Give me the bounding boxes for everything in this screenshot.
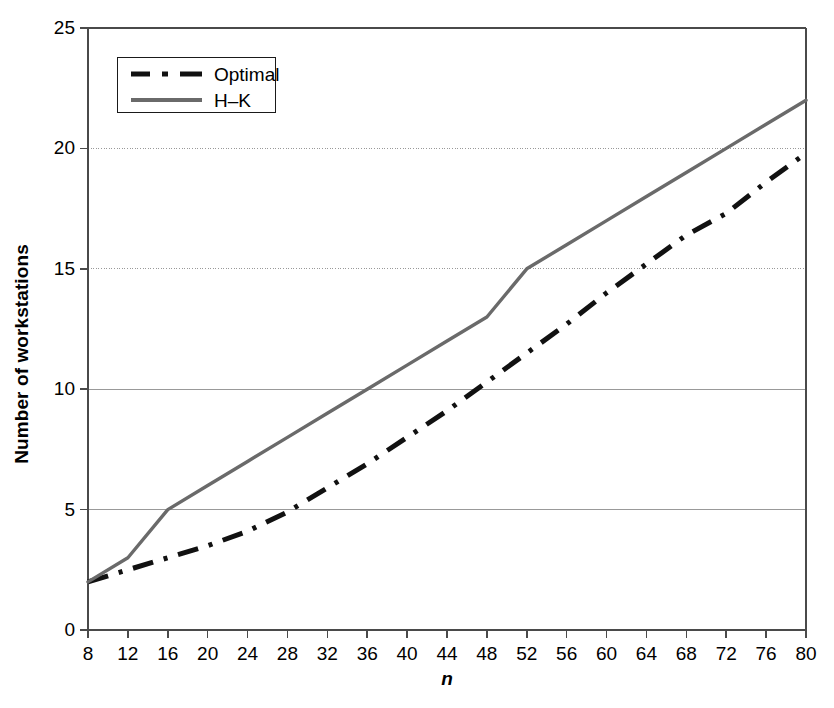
legend: Optimal H–K [117,57,276,113]
legend-label-hk: H–K [214,91,251,110]
x-tick-label: 68 [676,643,697,665]
legend-item-hk: H–K [130,87,251,113]
legend-item-optimal: Optimal [130,61,279,87]
x-tick-label: 52 [516,643,537,665]
y-tick-label: 0 [20,619,75,641]
legend-swatch-optimal [130,66,204,82]
y-tick-label: 5 [20,499,75,521]
x-tick-label: 80 [795,643,816,665]
x-tick-label: 48 [476,643,497,665]
chart-container: 0510152025 81216202428323640444852566064… [0,0,834,708]
legend-label-optimal: Optimal [214,65,279,84]
x-axis-title: n [88,668,806,690]
x-tick-label: 56 [556,643,577,665]
x-tick-label: 28 [277,643,298,665]
x-tick-label: 40 [397,643,418,665]
x-tick-label: 12 [117,643,138,665]
x-tick-label: 20 [197,643,218,665]
tick-marks-group [80,28,806,638]
legend-swatch-hk [130,92,204,108]
x-tick-label: 8 [83,643,94,665]
y-tick-label: 25 [20,17,75,39]
series-line-optimal [88,153,806,582]
x-tick-label: 36 [357,643,378,665]
x-tick-label: 24 [237,643,258,665]
x-tick-label: 64 [636,643,657,665]
x-tick-label: 60 [596,643,617,665]
x-tick-label: 44 [436,643,457,665]
y-tick-label: 20 [20,137,75,159]
x-tick-label: 76 [756,643,777,665]
x-tick-label: 72 [716,643,737,665]
x-tick-label: 16 [157,643,178,665]
y-tick-label: 15 [20,258,75,280]
axes-lines-group [88,28,806,630]
y-tick-label: 10 [20,378,75,400]
x-tick-label: 32 [317,643,338,665]
